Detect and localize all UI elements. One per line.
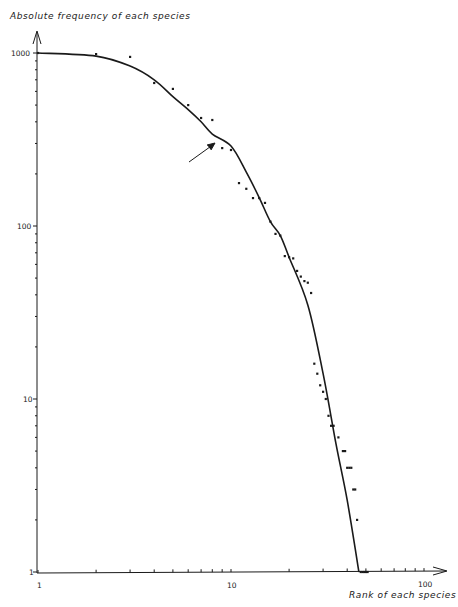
data-point <box>200 117 202 119</box>
data-point <box>342 450 344 452</box>
data-point <box>348 467 350 469</box>
data-point <box>288 256 290 258</box>
data-point <box>307 282 309 284</box>
data-point <box>292 257 294 259</box>
x-axis-line <box>37 571 446 573</box>
data-point <box>172 88 174 90</box>
y-tick-label-1000: 1000 <box>11 49 30 58</box>
data-point <box>310 292 312 294</box>
data-point <box>245 188 247 190</box>
data-point <box>300 276 302 278</box>
data-points <box>37 52 369 573</box>
data-point <box>303 280 305 282</box>
data-point <box>316 373 318 375</box>
data-point <box>187 104 189 106</box>
data-point <box>350 467 352 469</box>
data-point <box>330 425 332 427</box>
data-point <box>337 436 339 438</box>
data-point <box>37 52 39 54</box>
data-point <box>129 56 131 58</box>
data-point <box>344 450 346 452</box>
rank-frequency-chart: 1000 100 10 1 1 10 100 <box>0 0 458 607</box>
data-point <box>238 182 240 184</box>
data-point <box>354 488 356 490</box>
data-point <box>95 53 97 55</box>
x-tick-label-10: 10 <box>227 581 237 590</box>
data-point <box>269 221 271 223</box>
y-ticks <box>33 53 37 572</box>
data-point <box>367 571 369 573</box>
data-point <box>264 202 266 204</box>
data-point <box>352 488 354 490</box>
tick-labels: 1000 100 10 1 1 10 100 <box>11 49 433 590</box>
fitted-curve <box>38 53 359 572</box>
axes <box>33 31 447 575</box>
annotation-arrow-icon <box>189 143 215 162</box>
data-point <box>284 255 286 257</box>
x-tick-label-100: 100 <box>418 580 433 589</box>
data-point <box>296 270 298 272</box>
x-tick-label-1: 1 <box>37 581 42 590</box>
data-point <box>230 149 232 151</box>
data-point <box>153 82 155 84</box>
data-point <box>258 197 260 199</box>
data-point <box>252 197 254 199</box>
data-point <box>325 398 327 400</box>
data-point <box>327 415 329 417</box>
y-tick-label-1: 1 <box>29 568 34 577</box>
data-point <box>356 519 358 521</box>
data-point <box>333 425 335 427</box>
data-point <box>221 147 223 149</box>
data-point <box>322 391 324 393</box>
y-tick-label-10: 10 <box>23 395 33 404</box>
data-point <box>346 467 348 469</box>
data-point <box>313 363 315 365</box>
y-tick-label-100: 100 <box>17 222 32 231</box>
data-point <box>211 119 213 121</box>
data-point <box>274 233 276 235</box>
data-point <box>319 384 321 386</box>
data-point <box>279 235 281 237</box>
